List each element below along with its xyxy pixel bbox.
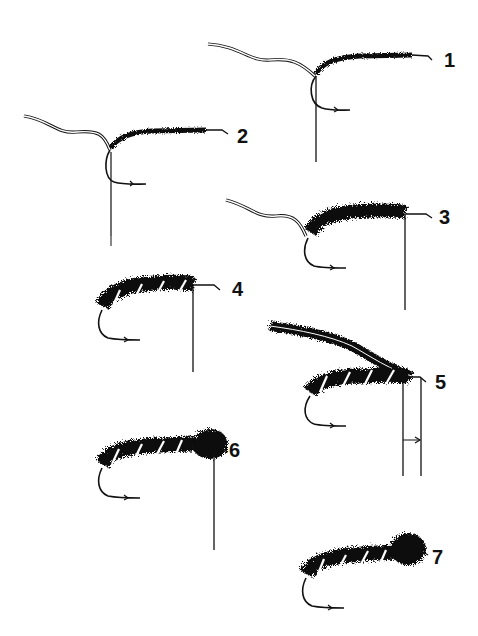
step-6-label: 6 <box>229 440 240 460</box>
step-3-illustration <box>226 200 432 310</box>
fly-tying-diagram <box>0 0 478 636</box>
step-7-illustration <box>303 533 428 610</box>
step-5-illustration <box>270 326 426 476</box>
step-3-label: 3 <box>439 207 450 227</box>
step-7-label: 7 <box>432 547 443 567</box>
step-2-illustration <box>24 116 228 246</box>
step-2-label: 2 <box>237 126 248 146</box>
step-4-illustration <box>99 280 220 372</box>
step-1-label: 1 <box>444 50 455 70</box>
step-6-illustration <box>99 429 228 550</box>
step-5-label: 5 <box>435 372 446 392</box>
step-4-label: 4 <box>232 279 243 299</box>
